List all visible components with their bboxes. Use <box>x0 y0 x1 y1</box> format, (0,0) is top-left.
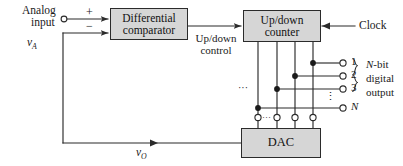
output-terminal-n <box>340 105 346 111</box>
dac-terminal-2 <box>292 114 298 120</box>
minus-terminal-sign: − <box>86 20 93 33</box>
output-variable-label: vO <box>136 146 147 162</box>
bus-vertical-ellipsis: ⋮ <box>325 91 336 103</box>
analog-input-label: Analog input <box>22 4 56 28</box>
analog-input-variable: vA <box>27 36 37 52</box>
updown-control-label: Up/down control <box>190 33 242 56</box>
digital-caption-line2: digital <box>366 72 394 84</box>
junction-dot-1 <box>310 60 316 66</box>
bit-label-1: 1 <box>351 56 357 68</box>
dac-terminal-1 <box>310 114 316 120</box>
arrowhead-clock <box>322 23 330 30</box>
counter-label-line2: counter <box>265 26 299 38</box>
block-dac[interactable]: DAC <box>241 128 321 158</box>
block-updown-counter[interactable]: Up/down counter <box>243 10 321 42</box>
counter-label-line1: Up/down <box>261 14 304 26</box>
output-terminal-2 <box>340 73 346 79</box>
dac-label: DAC <box>268 136 294 150</box>
block-differential-comparator[interactable]: Differential comparator <box>110 8 188 40</box>
arrowhead-vo <box>150 140 158 147</box>
bit-label-3: 3 <box>351 82 357 94</box>
vo-subscript: O <box>141 152 147 161</box>
analog-input-terminal <box>61 16 67 22</box>
updown-control-line2: control <box>200 44 231 56</box>
analog-input-line2: input <box>23 16 55 28</box>
junction-dots <box>255 60 316 111</box>
bus-horizontal-ellipsis: ··· <box>238 83 248 94</box>
dac-terminal-n <box>255 114 261 120</box>
junction-dot-2 <box>292 73 298 79</box>
junction-dot-n <box>255 105 261 111</box>
output-terminal-3 <box>340 86 346 92</box>
comparator-label-line1: Differential <box>122 12 175 24</box>
plus-terminal-sign: + <box>86 6 93 19</box>
comparator-label-line2: comparator <box>123 24 175 36</box>
bit-label-2: 2 <box>351 69 357 81</box>
dac-terminal-ellipsis: ··· <box>262 113 271 122</box>
digital-caption-line3: output <box>366 86 394 98</box>
clock-label: Clock <box>359 19 386 31</box>
va-subscript: A <box>32 42 37 51</box>
digital-output-caption: N-bit digital output <box>366 58 394 99</box>
analog-input-line1: Analog <box>22 4 56 16</box>
dac-terminal-3 <box>274 114 280 120</box>
updown-control-line1: Up/down <box>196 32 237 44</box>
nbit-rest: -bit <box>373 58 388 70</box>
wiring-layer <box>0 0 403 166</box>
output-terminal-1 <box>340 60 346 66</box>
bit-label-n: N <box>351 101 358 113</box>
junction-dot-3 <box>274 86 280 92</box>
tracking-adc-diagram: Differential comparator Up/down counter … <box>0 0 403 166</box>
output-terminals <box>340 60 346 111</box>
